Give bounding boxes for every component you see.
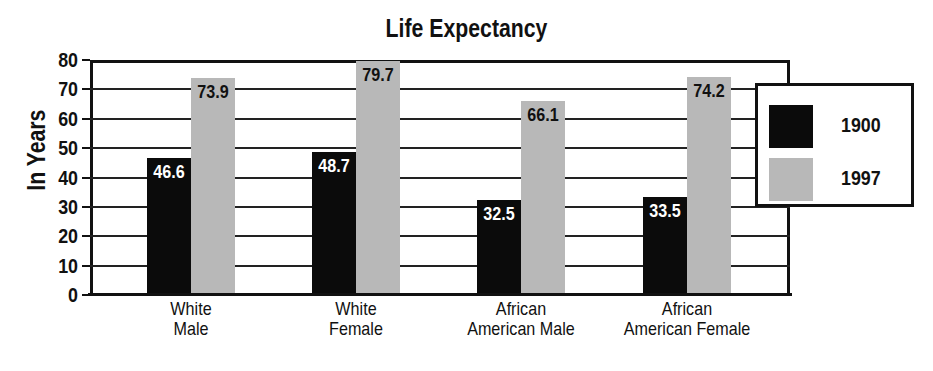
y-tick-label: 60 — [46, 109, 78, 129]
y-tick — [82, 265, 90, 267]
y-tick — [82, 206, 90, 208]
y-tick-label: 0 — [46, 285, 78, 305]
y-tick — [82, 118, 90, 120]
y-tick — [82, 147, 90, 149]
y-tick-label: 10 — [46, 256, 78, 276]
y-tick — [82, 235, 90, 237]
y-tick-label: 80 — [46, 50, 78, 70]
y-tick-label: 70 — [46, 79, 78, 99]
bar-value-label: 66.1 — [524, 104, 561, 126]
legend-label-1900: 1900 — [841, 113, 881, 137]
bar-value-label: 48.7 — [315, 155, 352, 177]
y-tick — [82, 59, 90, 61]
y-tick-label: 50 — [46, 138, 78, 158]
legend-swatch-1997 — [769, 158, 813, 201]
bar-1997 — [521, 101, 565, 295]
y-tick-label: 30 — [46, 197, 78, 217]
x-category-label: AfricanAmerican Female — [615, 299, 760, 339]
bar-value-label: 32.5 — [480, 203, 517, 225]
bar-value-label: 74.2 — [690, 80, 727, 102]
bar-1997 — [687, 77, 731, 295]
y-tick — [82, 88, 90, 90]
bar-value-label: 73.9 — [194, 81, 231, 103]
bar-1997 — [356, 61, 400, 295]
y-tick-label: 40 — [46, 168, 78, 188]
bar-value-label: 33.5 — [646, 200, 683, 222]
bar-value-label: 79.7 — [359, 64, 396, 86]
bar-value-label: 46.6 — [150, 161, 187, 183]
y-tick-label: 20 — [46, 226, 78, 246]
bar-1997 — [191, 78, 235, 295]
chart-title: Life Expectancy — [70, 14, 863, 43]
y-tick — [82, 177, 90, 179]
x-category-label: AfricanAmerican Male — [449, 299, 594, 339]
x-axis — [88, 293, 792, 296]
legend-swatch-1900 — [769, 105, 813, 148]
legend: 1900 1997 — [755, 83, 914, 207]
x-category-label: WhiteFemale — [284, 299, 429, 339]
legend-label-1997: 1997 — [841, 166, 881, 190]
x-category-label: WhiteMale — [119, 299, 264, 339]
